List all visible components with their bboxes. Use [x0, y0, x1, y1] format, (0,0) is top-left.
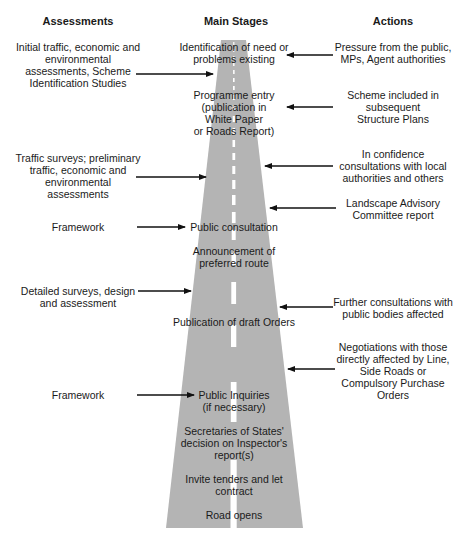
stage-invite-tenders: Invite tenders and let contract [169, 473, 299, 497]
action-public-pressure: Pressure from the public, MPs, Agent aut… [323, 41, 463, 65]
action-further-consultations: Further consultations with public bodies… [323, 296, 463, 320]
stage-programme-entry: Programme entry (publication in White Pa… [169, 89, 299, 137]
action-landscape-committee: Landscape Advisory Committee report [323, 197, 463, 221]
header-actions: Actions [323, 15, 463, 27]
action-confidential-consultations: In confidence consultations with local a… [323, 148, 463, 184]
stage-public-consultation: Public consultation [169, 221, 299, 233]
action-negotiations: Negotiations with those directly affecte… [323, 341, 463, 401]
stage-announcement-preferred-route: Announcement of preferred route [169, 245, 299, 269]
action-structure-plans: Scheme included in subsequent Structure … [323, 89, 463, 125]
stage-secretary-decision: Secretaries of States' decision on Inspe… [162, 425, 306, 461]
header-main-stages: Main Stages [166, 15, 306, 27]
assessment-traffic-surveys: Traffic surveys; preliminary traffic, ec… [3, 152, 153, 200]
stage-identification-of-need: Identification of need or problems exist… [169, 41, 299, 65]
assessment-initial-studies: Initial traffic, economic and environmen… [3, 41, 153, 89]
stage-road-opens: Road opens [169, 509, 299, 521]
stage-publication-draft-orders: Publication of draft Orders [159, 316, 309, 328]
road-stages-diagram: Assessments Main Stages Actions Initial … [0, 0, 463, 538]
header-assessments: Assessments [8, 15, 148, 27]
stage-public-inquiries: Public Inquiries (if necessary) [169, 389, 299, 413]
assessment-framework-2: Framework [3, 389, 153, 401]
assessment-detailed-surveys: Detailed surveys, design and assessment [3, 285, 153, 309]
assessment-framework-1: Framework [3, 221, 153, 233]
